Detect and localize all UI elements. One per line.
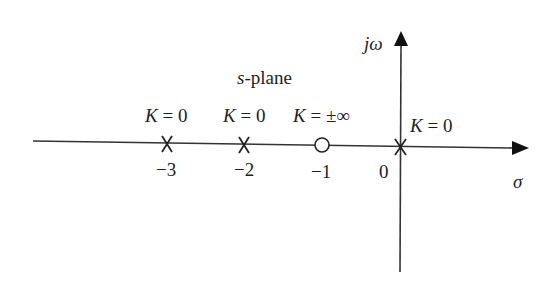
real-axis [33, 141, 514, 148]
real-axis-label: σ [513, 172, 522, 191]
origin-label: 0 [379, 162, 389, 181]
zero-circle-icon [315, 138, 329, 152]
tick-label: −2 [234, 160, 254, 179]
k-var: K [145, 105, 158, 126]
pole-x-icon [162, 136, 172, 152]
tick-label: −3 [156, 160, 176, 179]
k-value: = 0 [423, 115, 453, 136]
imaginary-axis-label: jω [364, 34, 383, 53]
k-value: = 0 [158, 105, 188, 126]
plane-title-suffix: -plane [244, 67, 291, 88]
plane-title: s-plane [237, 68, 292, 87]
pole-label: K = 0 [410, 116, 452, 135]
pole-label: K = 0 [145, 106, 187, 125]
k-var: K [223, 105, 236, 126]
s-plane-axes [0, 0, 553, 286]
k-var: K [293, 105, 306, 126]
k-value: = 0 [236, 105, 266, 126]
root-locus-diagram: s-plane jω σ K = 0 K = 0 K = ±∞ K = 0 −3… [0, 0, 553, 286]
zero-label: K = ±∞ [293, 106, 350, 125]
pole-label: K = 0 [223, 106, 265, 125]
k-var: K [410, 115, 423, 136]
imaginary-axis [400, 45, 401, 272]
pole-x-icon [239, 137, 249, 153]
k-value: = ±∞ [306, 105, 350, 126]
tick-label: −1 [311, 162, 331, 181]
real-axis-arrow-icon [512, 141, 529, 155]
imaginary-axis-arrow-icon [394, 31, 408, 46]
